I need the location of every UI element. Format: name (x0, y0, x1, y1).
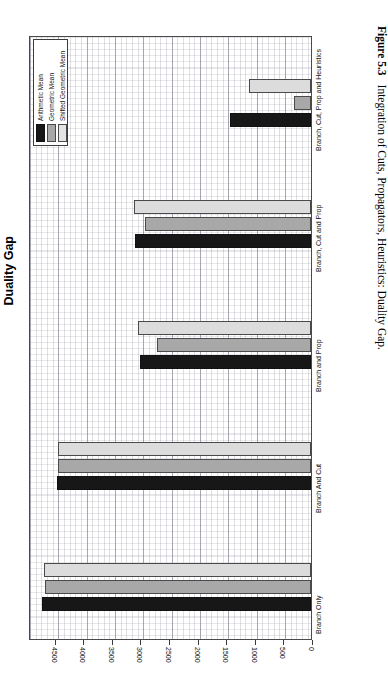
value-tick-label: 4500 (51, 647, 58, 663)
bar-group (30, 279, 311, 400)
value-tick-label: 1000 (251, 647, 258, 663)
legend-swatch-arithmetic-mean (36, 124, 45, 142)
value-tick (169, 640, 170, 645)
bar-shift (44, 563, 311, 577)
value-tick (312, 640, 313, 645)
figure-number: Figure 5.3 (376, 26, 388, 76)
bar-arith (140, 355, 311, 369)
value-tick (283, 640, 284, 645)
value-tick-label: 2500 (165, 647, 172, 663)
bar-shift (58, 442, 311, 456)
value-tick-label: 1500 (222, 647, 229, 663)
value-tick-label: 3500 (108, 647, 115, 663)
legend-swatch-shifted-geometric-mean (58, 124, 67, 142)
bar-shift (134, 200, 311, 214)
category-label: Branch and Prop (315, 340, 322, 393)
bar-group (30, 37, 311, 158)
chart-legend: Arithmetic Mean Geometric Mean Shifted G… (33, 39, 68, 146)
category-label: Branch And Cut (315, 464, 322, 513)
figure-caption-text: Integration of Cuts, Propagators, Heuris… (376, 85, 388, 350)
category-label: Branch Only (315, 595, 322, 634)
chart-title: Duality Gap (2, 236, 16, 305)
value-tick (255, 640, 256, 645)
bar-arith (135, 234, 311, 248)
value-tick-label: 2000 (194, 647, 201, 663)
bar-group (30, 158, 311, 279)
value-tick-label: 500 (279, 647, 286, 659)
plot-area (29, 36, 312, 640)
legend-label-arithmetic-mean: Arithmetic Mean (37, 74, 44, 121)
bar-group (30, 520, 311, 640)
bar-series-container (30, 37, 311, 639)
value-tick (226, 640, 227, 645)
category-label: Branch, Cut and Prop (315, 204, 322, 271)
value-tick (198, 640, 199, 645)
category-axis: Branch OnlyBranch And CutBranch and Prop… (313, 36, 347, 640)
bar-geo (58, 459, 311, 473)
value-tick (83, 640, 84, 645)
legend-swatch-geometric-mean (47, 124, 56, 142)
value-tick-label: 3000 (136, 647, 143, 663)
bar-geo (45, 580, 311, 594)
value-tick (140, 640, 141, 645)
bar-shift (138, 321, 311, 335)
value-tick (55, 640, 56, 645)
bar-arith (42, 597, 311, 611)
bar-geo (145, 217, 311, 231)
value-axis: 450040003500300025002000150010005000 (29, 640, 312, 698)
value-tick-label: 0 (308, 647, 315, 651)
legend-label-geometric-mean: Geometric Mean (48, 73, 55, 121)
bar-group (30, 399, 311, 520)
value-tick (112, 640, 113, 645)
bar-shift (249, 79, 311, 93)
bar-arith (57, 476, 311, 490)
value-tick-label: 4000 (79, 647, 86, 663)
bar-arith (230, 113, 311, 127)
figure-caption: Figure 5.3Integration of Cuts, Propagato… (376, 26, 388, 350)
bar-geo (294, 96, 311, 110)
figure-container: Duality Gap Arithmetic Mean Geometric Me… (0, 0, 388, 700)
bar-geo (157, 338, 311, 352)
legend-label-shifted-geometric-mean: Shifted Geometric Mean (59, 51, 66, 121)
category-label: Branch, Cut, Prop and Heuristics (315, 49, 322, 151)
plot-frame (29, 36, 312, 640)
